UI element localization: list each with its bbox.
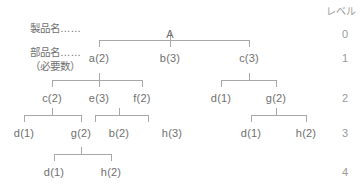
- connector-horizontal-bar: [221, 80, 276, 81]
- tree-node-n2b: e(3): [89, 92, 109, 104]
- connector-child-tick: [170, 40, 171, 47]
- connector-child-tick: [99, 80, 100, 87]
- level-column-header: レベル: [326, 6, 356, 18]
- tree-node-n2d: d(1): [211, 92, 231, 104]
- tree-node-n2a: c(2): [42, 92, 62, 104]
- connector-child-tick: [99, 40, 100, 47]
- connector-child-tick: [148, 115, 149, 122]
- connector-child-tick: [111, 154, 112, 161]
- level-number-1: 1: [342, 52, 348, 64]
- connector-horizontal-bar: [95, 115, 148, 116]
- connector-child-tick: [142, 80, 143, 87]
- tree-node-n3e: d(1): [241, 127, 261, 139]
- connector-parent-stub: [119, 108, 120, 115]
- row-label-part-name: 部品名……: [30, 46, 81, 59]
- connector-child-tick: [221, 80, 222, 87]
- connector-parent-stub: [99, 73, 100, 80]
- connector-parent-stub: [81, 147, 82, 154]
- connector-child-tick: [81, 115, 82, 122]
- level-number-4: 4: [342, 166, 348, 178]
- tree-node-n2e: g(2): [266, 92, 286, 104]
- connector-child-tick: [24, 115, 25, 122]
- tree-node-n1b: b(3): [160, 52, 180, 64]
- bom-tree-diagram: 製品名…… 部品名…… （必要数） レベル Aa(2)b(3)c(3)c(2)e…: [0, 0, 363, 195]
- tree-node-n4b: h(2): [101, 166, 121, 178]
- connector-horizontal-bar: [52, 80, 142, 81]
- tree-node-n3a: d(1): [14, 127, 34, 139]
- connector-parent-stub: [52, 108, 53, 115]
- tree-node-n3d: h(3): [162, 127, 182, 139]
- connector-child-tick: [95, 115, 96, 122]
- connector-parent-stub: [276, 108, 277, 115]
- tree-node-n4a: d(1): [44, 166, 64, 178]
- level-number-2: 2: [342, 92, 348, 104]
- connector-horizontal-bar: [54, 154, 111, 155]
- connector-child-tick: [306, 115, 307, 122]
- connector-parent-stub: [249, 73, 250, 80]
- connector-child-tick: [52, 80, 53, 87]
- connector-horizontal-bar: [24, 115, 81, 116]
- tree-node-n2c: f(2): [133, 92, 150, 104]
- connector-child-tick: [251, 115, 252, 122]
- tree-node-n0: A: [166, 28, 174, 40]
- level-number-3: 3: [342, 127, 348, 139]
- row-label-product-name: 製品名……: [30, 22, 81, 35]
- row-label-required-quantity: （必要数）: [30, 60, 80, 73]
- connector-horizontal-bar: [251, 115, 306, 116]
- tree-node-n3b: g(2): [71, 127, 91, 139]
- tree-node-n3f: h(2): [296, 127, 316, 139]
- connector-child-tick: [276, 80, 277, 87]
- tree-node-n3c: b(2): [109, 127, 129, 139]
- connector-child-tick: [54, 154, 55, 161]
- tree-node-n1c: c(3): [239, 52, 259, 64]
- connector-child-tick: [249, 40, 250, 47]
- tree-node-n1a: a(2): [89, 52, 109, 64]
- connector-horizontal-bar: [99, 40, 249, 41]
- level-number-0: 0: [342, 28, 348, 40]
